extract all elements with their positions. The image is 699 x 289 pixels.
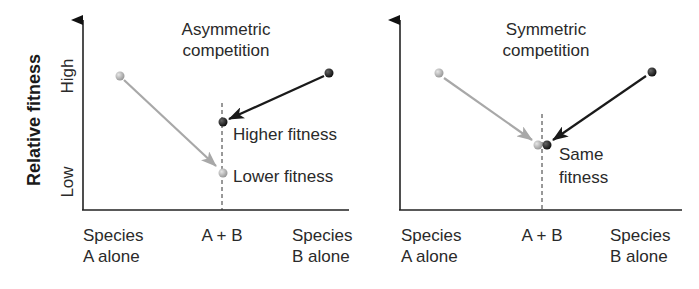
panel-asymmetric: Asymmetric competition Higher fitness Lo… xyxy=(82,20,352,266)
species-a-combined-point xyxy=(534,141,543,150)
same-fitness-label: Same xyxy=(559,145,603,164)
species-a-arrow xyxy=(124,80,216,166)
higher-fitness-label: Higher fitness xyxy=(233,125,337,144)
panel-title: competition xyxy=(503,41,590,60)
species-a-alone-point xyxy=(116,72,125,81)
x-label-species-b: B alone xyxy=(610,247,668,266)
x-label-species-a: A alone xyxy=(83,247,140,266)
x-label-species-a: A alone xyxy=(401,247,458,266)
x-label-combined: A + B xyxy=(201,226,242,245)
y-axis-high-label: High xyxy=(58,59,77,94)
panel-title: Symmetric xyxy=(506,20,587,39)
x-label-species-a: Species xyxy=(401,226,461,245)
species-b-alone-point xyxy=(648,68,657,77)
x-label-species-b: B alone xyxy=(292,247,350,266)
species-a-alone-point xyxy=(435,69,444,78)
species-a-combined-point xyxy=(219,169,228,178)
species-b-combined-point xyxy=(543,141,552,150)
panel-symmetric: Symmetric competition Same fitness Speci… xyxy=(399,20,682,266)
competition-diagram: Relative fitness High Low Asymmetric com… xyxy=(0,0,699,289)
species-b-alone-point xyxy=(325,69,334,78)
x-label-species-b: Species xyxy=(292,226,352,245)
x-label-species-b: Species xyxy=(610,226,670,245)
species-b-combined-point xyxy=(219,118,228,127)
x-label-combined: A + B xyxy=(521,226,562,245)
panel-title: Asymmetric xyxy=(182,20,271,39)
panel-title: competition xyxy=(183,41,270,60)
species-b-arrow xyxy=(229,76,324,119)
lower-fitness-label: Lower fitness xyxy=(233,167,333,186)
y-axis-low-label: Low xyxy=(58,166,77,198)
species-b-arrow xyxy=(553,76,646,140)
x-label-species-a: Species xyxy=(83,226,143,245)
species-a-arrow xyxy=(444,78,532,140)
same-fitness-label: fitness xyxy=(559,168,608,187)
y-axis-label: Relative fitness xyxy=(24,54,44,186)
